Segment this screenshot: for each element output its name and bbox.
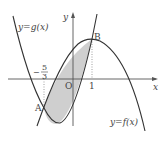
g-label: y=g(x) [17,22,49,32]
point-a-label: A [34,103,42,113]
neg-sign: − [33,68,40,77]
x-axis-label: x [153,82,158,92]
origin-label: O [65,81,72,91]
tick-one-label: 1 [89,81,95,91]
y-axis-label: y [62,12,69,22]
x-axis-arrow-icon [152,77,158,81]
function-graph: y=g(x) y=f(x) y x O A B − 5 3 1 [0,0,166,144]
y-axis-arrow-icon [71,12,75,18]
frac-numerator: 5 [42,63,47,72]
frac-denominator: 3 [42,72,47,81]
point-b-label: B [94,32,101,42]
f-label: y=f(x) [109,117,139,127]
